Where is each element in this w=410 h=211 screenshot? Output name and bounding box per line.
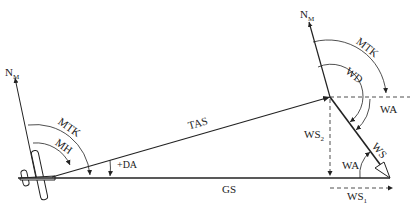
label-ws1: WS1 <box>347 191 367 205</box>
label-wa-bottom: WA <box>342 160 359 171</box>
aircraft-icon <box>20 150 55 200</box>
wa-arc-top <box>356 99 370 130</box>
tas-vector <box>52 97 330 177</box>
north-line-right <box>309 22 330 97</box>
ws-arrowhead <box>375 162 390 178</box>
label-ws2: WS2 <box>304 129 324 143</box>
label-wa-top: WA <box>380 104 397 115</box>
ws-vector <box>330 97 382 167</box>
north-line-left <box>15 78 36 178</box>
label-gs: GS <box>222 184 236 195</box>
label-north-left: NM <box>5 67 19 81</box>
label-north-right: NM <box>300 9 314 23</box>
wa-arc-bottom <box>360 152 370 178</box>
label-da: +DA <box>117 160 137 170</box>
wind-triangle-diagram <box>0 0 410 211</box>
